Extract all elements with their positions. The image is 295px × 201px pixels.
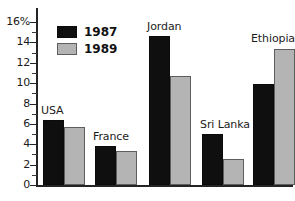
y-tick-label-16: 16% [0, 15, 30, 28]
category-label-france: France [93, 130, 129, 143]
legend-label-1989: 1989 [84, 42, 117, 56]
bar-france-1989 [116, 151, 137, 185]
y-tick-label-8: 8 [0, 97, 30, 110]
bar-ethiopia-1987 [253, 84, 274, 185]
bar-jordan-1987 [149, 36, 170, 185]
y-tick-label-10: 10 [0, 76, 30, 89]
bar-chart: 16%14121086420 USAFranceJordanSri LankaE… [0, 0, 295, 201]
bar-sri-lanka-1987 [202, 134, 223, 185]
y-tick-label-14: 14 [0, 35, 30, 48]
y-tick-label-0: 0 [0, 178, 30, 191]
bar-sri-lanka-1989 [223, 159, 244, 185]
caption-strip [0, 193, 295, 201]
y-tick-label-2: 2 [0, 158, 30, 171]
y-tick-label-12: 12 [0, 56, 30, 69]
bar-jordan-1989 [170, 76, 191, 185]
category-label-sri-lanka: Sri Lanka [200, 118, 250, 131]
legend-item-1987: 1987 [57, 24, 117, 39]
gray-swatch-icon [57, 43, 77, 55]
legend-label-1987: 1987 [84, 25, 117, 39]
bar-france-1987 [95, 146, 116, 185]
y-tick-label-6: 6 [0, 117, 30, 130]
category-label-ethiopia: Ethiopia [251, 32, 295, 45]
legend-item-1989: 1989 [57, 41, 117, 56]
legend: 1987 1989 [57, 24, 117, 58]
black-swatch-icon [57, 26, 77, 38]
category-label-usa: USA [41, 104, 63, 117]
bar-usa-1987 [43, 120, 64, 185]
category-label-jordan: Jordan [147, 20, 181, 33]
x-axis-line [36, 185, 293, 187]
y-tick-label-4: 4 [0, 137, 30, 150]
bar-ethiopia-1989 [274, 49, 295, 186]
bar-usa-1989 [64, 127, 85, 185]
